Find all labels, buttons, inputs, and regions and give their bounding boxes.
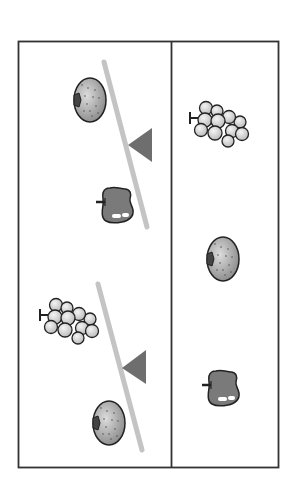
balance-scale-2 [40, 284, 146, 450]
melon-icon [74, 78, 106, 122]
grapes-icon [40, 299, 99, 345]
apple-icon [96, 187, 133, 223]
puzzle-frame [19, 42, 279, 468]
melon-icon [93, 401, 125, 445]
apple-icon[interactable] [202, 370, 239, 406]
puzzle-canvas [0, 0, 294, 483]
melon-icon[interactable] [207, 237, 239, 281]
fulcrum-triangle [128, 128, 152, 162]
answer-options [190, 102, 249, 407]
grapes-icon[interactable] [190, 102, 249, 148]
balance-scale-1 [74, 62, 152, 227]
